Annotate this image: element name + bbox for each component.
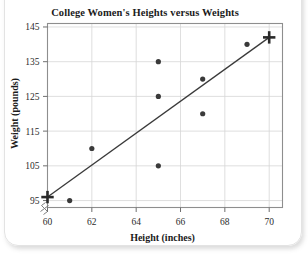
scatter-point [67, 198, 72, 203]
plot-border [48, 24, 283, 208]
y-tick-label: 125 [25, 92, 40, 102]
grid-lines [48, 24, 283, 208]
y-tick-label: 115 [26, 127, 40, 137]
x-tick-label: 64 [131, 217, 141, 227]
y-tick-label: 95 [30, 196, 40, 206]
plus-marker [268, 31, 271, 43]
scatter-point [200, 111, 205, 116]
x-tick-label: 60 [43, 217, 53, 227]
axis-break-zigzag [41, 203, 46, 212]
x-tick-label: 70 [264, 217, 274, 227]
scatter-point [156, 163, 161, 168]
y-tick-label: 105 [25, 161, 40, 171]
chart-page: College Women's Heights versus Weights W… [0, 0, 308, 257]
y-tick-label: 135 [25, 57, 40, 67]
x-tick-label: 68 [220, 217, 230, 227]
axis-tick-labels: 60626466687095105115125135145 [25, 22, 274, 226]
y-tick-label: 145 [25, 22, 40, 32]
scatter-point [244, 42, 249, 47]
plus-marker [46, 191, 49, 203]
scatter-point [200, 76, 205, 81]
x-tick-label: 66 [176, 217, 186, 227]
plot-frame [48, 24, 283, 208]
scatter-point [89, 146, 94, 151]
scatter-point [156, 94, 161, 99]
scatter-plot-figure: College Women's Heights versus Weights W… [0, 0, 308, 257]
x-tick-label: 62 [87, 217, 97, 227]
scatter-point [156, 59, 161, 64]
plot-canvas: 60626466687095105115125135145 [0, 0, 308, 257]
